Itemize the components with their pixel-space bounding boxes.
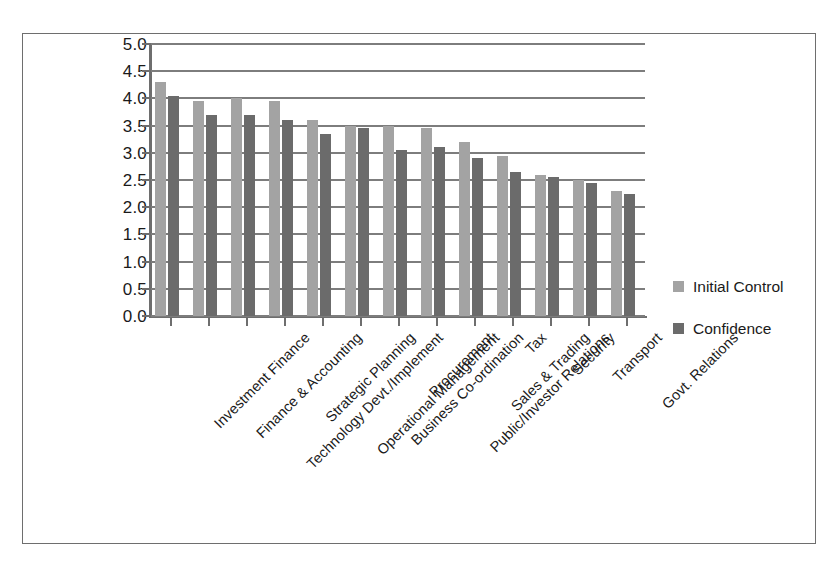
bar-group[interactable] <box>307 44 332 316</box>
x-axis-tick-mark <box>436 317 438 326</box>
bar-confidence[interactable] <box>206 115 218 316</box>
bar-initial-control[interactable] <box>269 101 281 316</box>
y-axis-tick-mark <box>142 179 151 181</box>
bar-confidence[interactable] <box>320 134 332 316</box>
x-axis-tick-mark <box>284 317 286 326</box>
x-axis-tick-mark <box>512 317 514 326</box>
x-axis-tick-mark <box>588 317 590 326</box>
bar-confidence[interactable] <box>396 150 408 316</box>
bar-group[interactable] <box>231 44 256 316</box>
x-axis-tick-label: Operational Management <box>375 330 503 458</box>
x-axis-tick-mark <box>360 317 362 326</box>
y-axis-tick-labels: 5.04.54.03.53.02.52.01.51.00.50.0 <box>99 44 147 316</box>
legend-swatch-icon <box>673 323 684 334</box>
x-axis-tick-label: Technology Devt./Implement <box>304 330 445 471</box>
bar-group[interactable] <box>383 44 408 316</box>
bar-initial-control[interactable] <box>421 128 433 316</box>
bar-confidence[interactable] <box>434 147 446 316</box>
bar-initial-control[interactable] <box>383 126 395 316</box>
bar-initial-control[interactable] <box>193 101 205 316</box>
bar-confidence[interactable] <box>586 183 598 316</box>
y-axis-tick-mark <box>142 233 151 235</box>
y-axis-tick-mark <box>142 97 151 99</box>
x-axis-tick-label: Strategic Planning <box>323 330 418 425</box>
x-axis-tick-label: Investment Finance <box>212 330 313 431</box>
legend-label: Initial Control <box>693 279 783 295</box>
x-axis-tick-mark <box>246 317 248 326</box>
legend-swatch-icon <box>673 281 684 292</box>
bar-initial-control[interactable] <box>611 191 623 316</box>
x-axis-tick-label: Sales & Trading <box>508 330 592 414</box>
x-axis-tick-mark <box>626 317 628 326</box>
bar-group[interactable] <box>497 44 522 316</box>
bar-initial-control[interactable] <box>535 175 547 316</box>
chart-frame: 5.04.54.03.53.02.52.01.51.00.50.0 Invest… <box>22 33 816 544</box>
legend-item[interactable]: Confidence <box>673 321 813 337</box>
chart-legend: Initial ControlConfidence <box>673 279 813 362</box>
y-axis-tick-mark <box>142 288 151 290</box>
x-axis-tick-label: Transport <box>610 330 664 384</box>
bar-group[interactable] <box>269 44 294 316</box>
x-axis-tick-label: Public/Investor Relations <box>487 330 612 455</box>
bar-confidence[interactable] <box>244 115 256 316</box>
bar-confidence[interactable] <box>282 120 294 316</box>
x-axis-tick-mark <box>208 317 210 326</box>
y-axis-tick-mark <box>142 261 151 263</box>
y-axis-tick-mark <box>142 206 151 208</box>
legend-item[interactable]: Initial Control <box>673 279 813 295</box>
y-axis-tick-mark <box>142 43 151 45</box>
bar-confidence[interactable] <box>548 177 560 316</box>
bar-confidence[interactable] <box>624 194 636 316</box>
bar-initial-control[interactable] <box>573 180 585 316</box>
bar-group[interactable] <box>611 44 636 316</box>
bar-initial-control[interactable] <box>307 120 319 316</box>
x-axis-tick-mark <box>322 317 324 326</box>
bar-initial-control[interactable] <box>155 82 167 316</box>
bar-group[interactable] <box>459 44 484 316</box>
x-axis-tick-mark <box>398 317 400 326</box>
bar-group[interactable] <box>345 44 370 316</box>
bar-confidence[interactable] <box>168 96 180 316</box>
y-axis-tick-mark <box>142 315 151 317</box>
bar-confidence[interactable] <box>472 158 484 316</box>
x-axis-tick-label: Finance & Accounting <box>254 330 365 441</box>
x-axis-tick-label: Business Co-ordination <box>409 330 527 448</box>
y-axis-tick-mark <box>142 125 151 127</box>
x-axis-tick-label: Procurement <box>427 330 497 400</box>
x-axis-tick-label: Tax <box>523 330 549 356</box>
bar-group[interactable] <box>535 44 560 316</box>
bar-group[interactable] <box>421 44 446 316</box>
bar-group[interactable] <box>155 44 180 316</box>
legend-label: Confidence <box>693 321 771 337</box>
bar-confidence[interactable] <box>358 128 370 316</box>
x-axis-tick-mark <box>170 317 172 326</box>
chart-plot-wrapper: 5.04.54.03.53.02.52.01.51.00.50.0 Invest… <box>23 34 817 545</box>
plot-area <box>151 44 645 316</box>
bar-initial-control[interactable] <box>459 142 471 316</box>
y-axis-tick-mark <box>142 70 151 72</box>
x-axis-tick-label: Security <box>570 330 618 378</box>
bar-initial-control[interactable] <box>345 126 357 316</box>
bar-group[interactable] <box>573 44 598 316</box>
x-axis-tick-mark <box>474 317 476 326</box>
bar-initial-control[interactable] <box>231 98 243 316</box>
bar-confidence[interactable] <box>510 172 522 316</box>
bar-initial-control[interactable] <box>497 156 509 316</box>
bar-group[interactable] <box>193 44 218 316</box>
x-axis-tick-mark <box>550 317 552 326</box>
y-axis-tick-mark <box>142 152 151 154</box>
